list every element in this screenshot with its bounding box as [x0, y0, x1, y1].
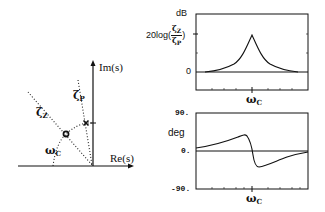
magnitude-zero-label: 0 — [186, 67, 191, 76]
phase-plot — [196, 113, 308, 192]
zeta-p-subscript: P — [80, 94, 85, 103]
magnitude-peak-label: 20log(ζZζP) — [146, 24, 185, 47]
zero-marker-icon — [63, 131, 68, 136]
magnitude-plot — [193, 14, 308, 93]
im-axis-label: Im(s) — [99, 62, 123, 73]
magnitude-minor-ticks — [196, 34, 308, 90]
omega-c-symbol: ω — [45, 144, 55, 157]
magnitude-x-label: ωC — [246, 94, 262, 106]
magnitude-unit-label: dB — [176, 9, 187, 18]
phase-ytick-bottom: -90. — [171, 185, 190, 193]
phase-ytick-mid: 0. — [181, 147, 191, 155]
real-axis-arrow-icon — [128, 164, 134, 169]
magnitude-curve — [205, 35, 298, 72]
omega-c-subscript: C — [55, 149, 61, 158]
zeta-p-label: ζP — [73, 90, 85, 102]
phase-unit-label: deg — [168, 128, 185, 138]
zeta-z-label: ζZ — [36, 107, 48, 119]
magnitude-plot-frame — [196, 14, 308, 90]
imaginary-axis-arrow-icon — [91, 60, 96, 66]
pole-marker-icon — [84, 121, 89, 126]
peak-label-suffix: ) — [182, 30, 185, 40]
zeta-z-subscript: Z — [43, 111, 48, 120]
peak-label-denominator: ζP — [171, 36, 182, 47]
peak-label-fraction: ζZζP — [171, 24, 182, 47]
phase-x-label: ωC — [246, 193, 262, 205]
peak-label-prefix: 20log( — [146, 30, 171, 40]
phase-ytick-top: 90. — [175, 109, 189, 117]
omega-c-label: ωC — [45, 145, 61, 157]
re-axis-label: Re(s) — [110, 153, 134, 164]
